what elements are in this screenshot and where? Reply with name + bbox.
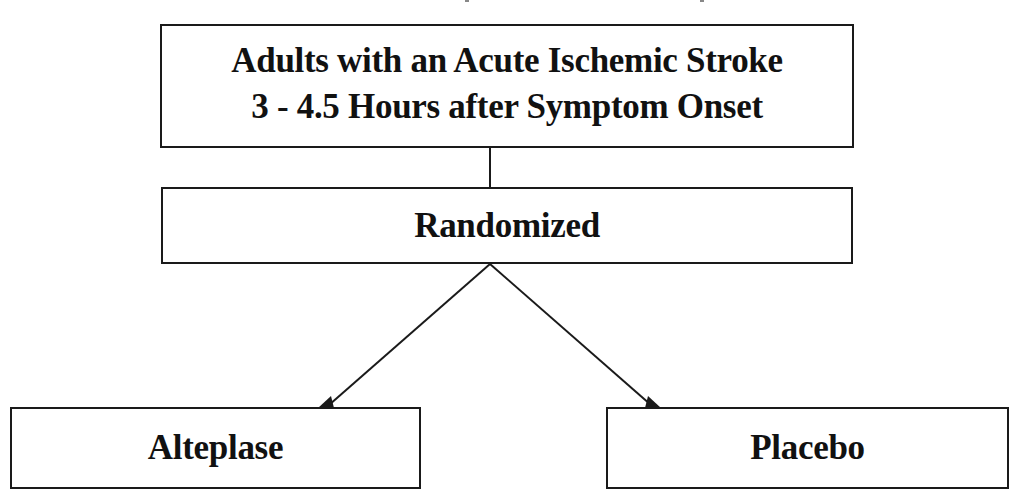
population-line-2: 3 - 4.5 Hours after Symptom Onset [251,84,763,130]
cropped-text-fragment [700,0,704,2]
alteplase-box: Alteplase [10,407,421,489]
randomized-box: Randomized [161,187,853,264]
arrow-to-alteplase [329,264,490,405]
population-line-1: Adults with an Acute Ischemic Stroke [231,38,783,84]
population-box: Adults with an Acute Ischemic Stroke 3 -… [160,24,854,148]
placebo-label: Placebo [750,425,865,471]
randomized-label: Randomized [414,203,600,249]
arrow-to-placebo [490,264,651,405]
cropped-text-fragment [465,0,469,2]
alteplase-label: Alteplase [148,425,283,471]
placebo-box: Placebo [606,407,1009,489]
